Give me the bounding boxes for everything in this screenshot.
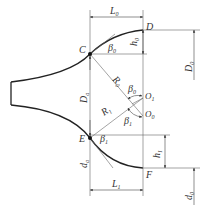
label-R1: R1 [98,103,113,119]
upper-converging-curve [11,54,90,82]
label-beta0-center: β0 [127,83,136,95]
label-D: D [145,21,154,32]
label-F: F [145,169,153,180]
label-C: C [79,44,86,55]
label-h1: h1 [151,150,163,158]
labels: C D E F O1 O0 L0 L1 β0 β0 β1 β1 R0 R1 h0… [78,5,195,200]
point-C-marker [88,52,92,56]
label-Da: Da [78,93,90,104]
label-h0: h0 [128,38,140,46]
label-E: E [78,133,85,144]
label-beta1-center: β1 [123,115,132,127]
label-O1: O1 [145,91,155,102]
profile-outline [11,30,143,168]
point-E-marker [88,136,92,140]
lower-arc-E-to-F [90,138,143,168]
label-d0: d0 [183,192,195,200]
label-O0: O0 [145,109,155,120]
label-da: da [78,160,90,168]
label-L0: L0 [109,5,119,17]
label-R0: R0 [109,73,125,89]
label-beta0-top: β0 [107,42,116,54]
nozzle-geometry-diagram: C D E F O1 O0 L0 L1 β0 β0 β1 β1 R0 R1 h0… [0,0,206,209]
label-D0: D0 [183,62,195,73]
label-L1: L1 [111,178,121,190]
construction-lines [90,10,200,196]
beta0-angle-arc [128,95,142,99]
